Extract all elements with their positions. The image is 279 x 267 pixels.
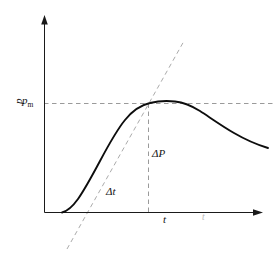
delta-t-label: Δt	[106, 186, 116, 197]
x-axis-arrow-icon	[253, 209, 263, 216]
pm-value-label-subscript: m	[28, 100, 34, 109]
y-axis-arrow-icon	[41, 15, 48, 25]
plot-area	[0, 0, 279, 267]
tangent-line	[67, 41, 184, 249]
x-axis-label: t	[202, 213, 205, 223]
pm-value-label: pm	[22, 95, 33, 109]
x-tick-label-t: t	[163, 214, 166, 225]
delta-p-label: ΔP	[152, 148, 165, 159]
pressure-time-curve-figure: p pm ΔP Δt t t	[0, 0, 279, 267]
